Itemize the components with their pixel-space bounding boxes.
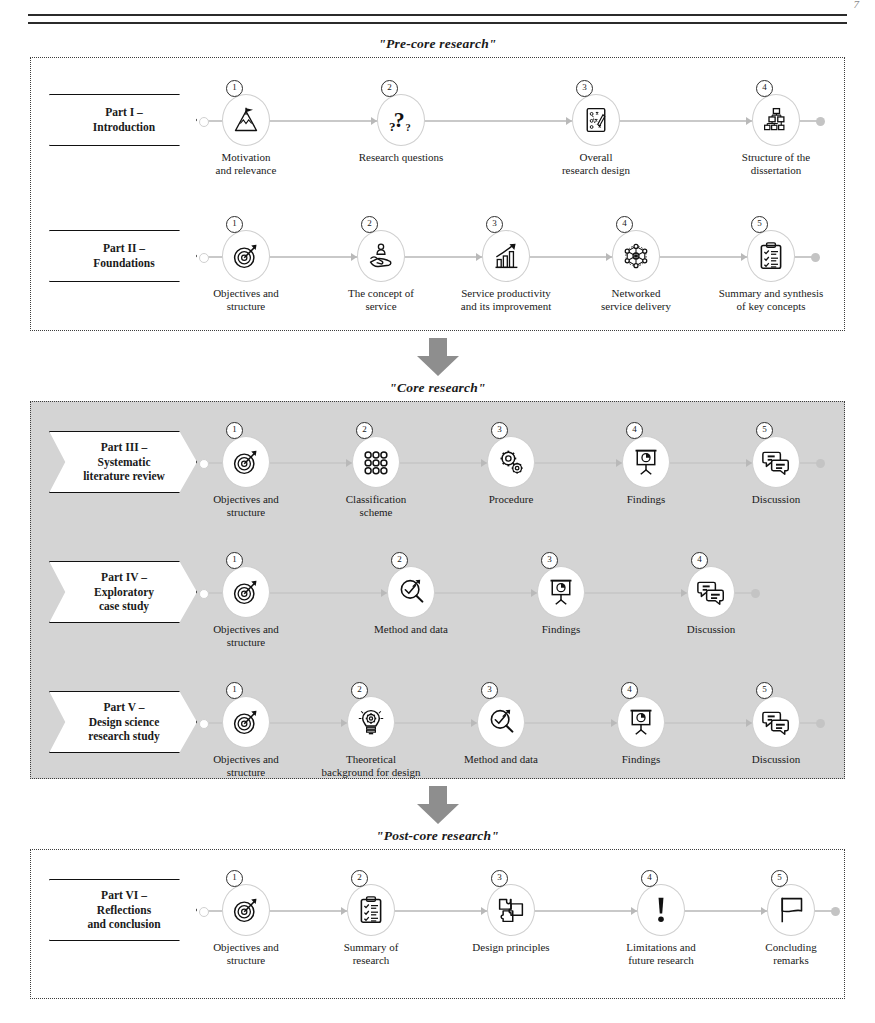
step-caption: Limitations and future research xyxy=(601,941,721,967)
step-number-badge: 4 xyxy=(616,216,633,233)
flow-end-dot xyxy=(751,589,760,598)
process-step[interactable]: 3Method and data xyxy=(441,696,561,766)
step-number-badge: 4 xyxy=(691,552,708,569)
step-icon-bubble xyxy=(767,884,815,936)
speech-bubbles-icon xyxy=(697,578,725,606)
process-step[interactable]: 3Overall research design xyxy=(536,94,656,177)
step-icon-bubble xyxy=(487,436,535,488)
step-caption: Procedure xyxy=(451,493,571,506)
process-step[interactable]: 2Classification scheme xyxy=(316,436,436,519)
process-step[interactable]: 1Objectives and structure xyxy=(186,696,306,779)
step-caption: Research questions xyxy=(341,151,461,164)
flow-end-dot xyxy=(816,459,825,468)
step-caption: The concept of service xyxy=(321,287,441,313)
step-icon-bubble xyxy=(222,884,270,936)
step-number-badge: 1 xyxy=(226,552,243,569)
step-number-badge: 1 xyxy=(226,682,243,699)
part-banner[interactable]: Part VI – Reflections and conclusion xyxy=(49,879,197,941)
flow-arrowhead xyxy=(616,459,622,467)
process-step[interactable]: 5Discussion xyxy=(716,696,836,766)
step-number-badge: 2 xyxy=(351,682,368,699)
hierarchy-tree-icon xyxy=(762,106,790,134)
process-step[interactable]: 2Method and data xyxy=(351,566,471,636)
flow-arrowhead xyxy=(741,253,747,261)
step-icon-bubble xyxy=(222,566,270,618)
step-caption: Objectives and structure xyxy=(186,623,306,649)
section-core: "Core research"Part III – Systematic lit… xyxy=(0,380,875,779)
step-number-badge: 4 xyxy=(626,422,643,439)
process-step[interactable]: 3Procedure xyxy=(451,436,571,506)
step-icon-bubble xyxy=(347,884,395,936)
process-step[interactable]: 4Limitations and future research xyxy=(601,884,721,967)
mountain-flag-icon xyxy=(232,106,260,134)
process-step[interactable]: 5Discussion xyxy=(716,436,836,506)
part-banner-label: Part I – Introduction xyxy=(75,105,171,134)
flow-end-dot xyxy=(811,253,820,262)
part-banner-label: Part V – Design science research study xyxy=(70,700,175,744)
step-caption: Overall research design xyxy=(536,151,656,177)
step-caption: Motivation and relevance xyxy=(186,151,306,177)
part-row: Part II – Foundations1Objectives and str… xyxy=(31,212,844,332)
step-caption: Discussion xyxy=(716,493,836,506)
part-banner[interactable]: Part V – Design science research study xyxy=(49,691,197,753)
step-caption: Structure of the dissertation xyxy=(716,151,836,177)
growth-chart-icon xyxy=(492,242,520,270)
process-step[interactable]: 1Objectives and structure xyxy=(186,566,306,649)
flow-arrowhead xyxy=(476,253,482,261)
flow-start-dot xyxy=(199,907,209,917)
process-step[interactable]: 2Summary of research xyxy=(311,884,431,967)
process-step[interactable]: 3Design principles xyxy=(451,884,571,954)
section-post-core: "Post-core research"Part VI – Reflection… xyxy=(0,828,875,999)
part-banner[interactable]: Part III – Systematic literature review xyxy=(49,431,197,493)
process-step[interactable]: 2The concept of service xyxy=(321,230,441,313)
step-icon-bubble xyxy=(222,436,270,488)
step-number-badge: 2 xyxy=(351,870,368,887)
process-step[interactable]: 2Theoretical background for design xyxy=(311,696,431,779)
part-banner[interactable]: Part I – Introduction xyxy=(49,94,197,146)
flow-arrowhead xyxy=(631,907,637,915)
process-step[interactable]: 1Motivation and relevance xyxy=(186,94,306,177)
flow-arrowhead xyxy=(746,459,752,467)
step-caption: Service productivity and its improvement xyxy=(446,287,566,313)
flag-icon xyxy=(777,896,805,924)
process-step[interactable]: 3Findings xyxy=(501,566,621,636)
process-step[interactable]: 4Findings xyxy=(586,436,706,506)
flow-arrowhead xyxy=(341,907,347,915)
process-step[interactable]: 4Networked service delivery xyxy=(576,230,696,313)
section-container-core: Part III – Systematic literature review1… xyxy=(30,401,845,779)
process-step[interactable]: 4Structure of the dissertation xyxy=(716,94,836,177)
part-banner[interactable]: Part IV – Exploratory case study xyxy=(49,561,197,623)
process-step[interactable]: 1Objectives and structure xyxy=(186,884,306,967)
part-banner-label: Part II – Foundations xyxy=(75,241,170,270)
target-arrow-icon xyxy=(232,242,260,270)
process-step[interactable]: 4Findings xyxy=(581,696,701,766)
step-icon-bubble xyxy=(622,436,670,488)
flow-arrowhead xyxy=(761,907,767,915)
flow-arrowhead xyxy=(471,719,477,727)
network-nodes-icon xyxy=(622,242,650,270)
flow-arrowhead xyxy=(746,719,752,727)
process-step[interactable]: 3Service productivity and its improvemen… xyxy=(446,230,566,313)
step-caption: Findings xyxy=(586,493,706,506)
step-icon-bubble xyxy=(612,230,660,282)
process-step[interactable]: 5Concluding remarks xyxy=(731,884,851,967)
step-caption: Method and data xyxy=(351,623,471,636)
step-icon-bubble xyxy=(637,884,685,936)
speech-bubbles-icon xyxy=(762,448,790,476)
target-arrow-icon xyxy=(232,708,260,736)
part-banner[interactable]: Part II – Foundations xyxy=(49,230,197,282)
process-step[interactable]: 1Objectives and structure xyxy=(186,230,306,313)
process-step[interactable]: 4Discussion xyxy=(651,566,771,636)
presentation-chart-icon xyxy=(547,578,575,606)
down-arrow-icon xyxy=(417,786,459,824)
classification-dots-icon xyxy=(362,448,390,476)
process-step[interactable]: 5Summary and synthesis of key concepts xyxy=(711,230,831,313)
step-number-badge: 1 xyxy=(226,422,243,439)
process-step[interactable]: 1Objectives and structure xyxy=(186,436,306,519)
step-icon-bubble xyxy=(352,436,400,488)
header-rule-top xyxy=(28,14,847,16)
step-number-badge: 2 xyxy=(381,80,398,97)
process-step[interactable]: 2Research questions xyxy=(341,94,461,164)
speech-bubbles-icon xyxy=(762,708,790,736)
step-caption: Discussion xyxy=(716,753,836,766)
